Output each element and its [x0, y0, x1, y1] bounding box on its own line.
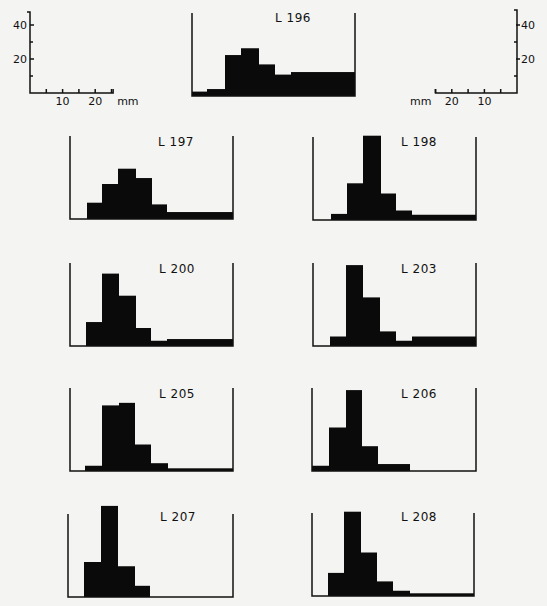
histogram-bar: [312, 466, 329, 471]
panel-label: L 200: [159, 262, 195, 276]
histogram-bar: [344, 512, 361, 596]
histogram-bar: [377, 581, 393, 596]
panel-label: L 198: [401, 135, 437, 149]
histogram-bar: [135, 445, 151, 472]
scale-axis: [27, 12, 113, 93]
histogram-bar: [151, 463, 168, 471]
histogram-bar: [393, 591, 410, 596]
histogram-bar: [101, 506, 118, 597]
y-tick-label: 40: [521, 19, 535, 32]
histogram-panel: L 203: [313, 262, 476, 346]
histogram-bar: [329, 428, 346, 472]
histogram-bar: [363, 297, 380, 346]
y-tick-label: 20: [521, 53, 535, 66]
scale-axis: [436, 10, 518, 93]
histogram-bar: [381, 194, 396, 221]
histogram-bar: [136, 178, 152, 219]
panel-label: L 203: [401, 262, 437, 276]
panel-label: L 207: [160, 510, 196, 524]
histogram-bar: [331, 214, 347, 220]
histogram-bar: [363, 136, 381, 220]
histogram-bar: [291, 72, 355, 96]
histogram-bar: [378, 464, 410, 471]
x-tick-label: 10: [56, 95, 70, 108]
histogram-panel: L 196: [192, 11, 355, 96]
histogram-bar: [347, 183, 363, 220]
histogram-bar: [346, 265, 363, 346]
x-tick-label: 20: [88, 95, 102, 108]
histogram-bar: [87, 203, 102, 219]
histogram-bar: [241, 48, 259, 96]
panel-label: L 206: [401, 387, 437, 401]
histogram-bar: [118, 566, 135, 597]
scale-bar-right: 40201020mm: [410, 10, 535, 108]
histogram-bar: [396, 211, 412, 221]
histogram-bar: [396, 341, 412, 346]
histogram-bar: [118, 169, 136, 219]
panel-label: L 205: [159, 387, 195, 401]
histogram-bar: [167, 212, 233, 219]
histogram-bar: [86, 322, 102, 346]
histogram-bar: [361, 553, 377, 597]
histogram-bar: [259, 64, 275, 96]
histogram-bar: [102, 274, 119, 346]
panel-label: L 208: [401, 510, 437, 524]
histogram-panel: L 208: [312, 510, 474, 596]
histogram-bar: [362, 446, 378, 471]
panel-label: L 196: [275, 11, 311, 25]
histogram-panel: L 198: [313, 135, 476, 220]
histogram-bar: [330, 337, 346, 347]
histogram-panel: L 205: [70, 387, 233, 471]
histogram-bar: [119, 296, 136, 346]
histogram-bar: [119, 403, 135, 471]
y-tick-label: 20: [13, 53, 27, 66]
histogram-panel: L 206: [312, 387, 476, 471]
x-tick-label: 10: [477, 95, 491, 108]
histogram-bar: [151, 341, 167, 346]
x-tick-label: 20: [445, 95, 459, 108]
histogram-bar: [412, 337, 476, 347]
histogram-bar: [85, 466, 102, 471]
histogram-panel: L 197: [70, 135, 233, 219]
histogram-panel: L 207: [68, 506, 233, 597]
histogram-bar: [346, 390, 362, 471]
histogram-bar: [152, 204, 167, 219]
x-unit-label: mm: [117, 95, 138, 108]
panel-frame: [70, 388, 233, 471]
histogram-bar: [102, 405, 119, 471]
scale-bar-left: 40201020mm: [13, 12, 139, 108]
histogram-figure: 40201020mm 40201020mm L 196L 197L 198L 2…: [0, 0, 547, 606]
histogram-bar: [136, 328, 151, 346]
histogram-bar: [167, 339, 233, 346]
y-tick-label: 40: [13, 19, 27, 32]
histogram-bar: [412, 215, 476, 220]
histogram-bar: [225, 55, 241, 96]
x-unit-label: mm: [410, 95, 431, 108]
histogram-panel: L 200: [70, 262, 233, 346]
histogram-bar: [328, 573, 344, 596]
panel-label: L 197: [158, 135, 194, 149]
histogram-bar: [275, 75, 291, 96]
histogram-bar: [84, 562, 101, 597]
histogram-bar: [380, 331, 396, 346]
histogram-bar: [102, 184, 118, 219]
histogram-bar: [207, 89, 225, 96]
histogram-bar: [135, 586, 150, 597]
